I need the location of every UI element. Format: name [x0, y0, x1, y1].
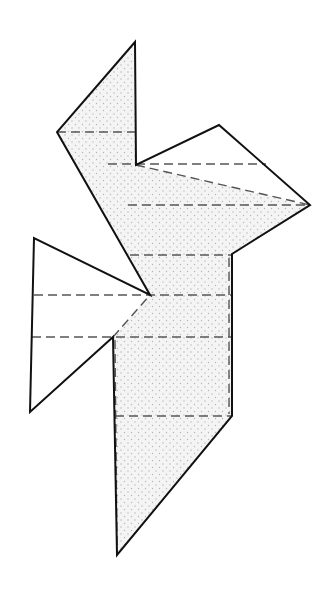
- origami-fold-diagram: [0, 0, 335, 592]
